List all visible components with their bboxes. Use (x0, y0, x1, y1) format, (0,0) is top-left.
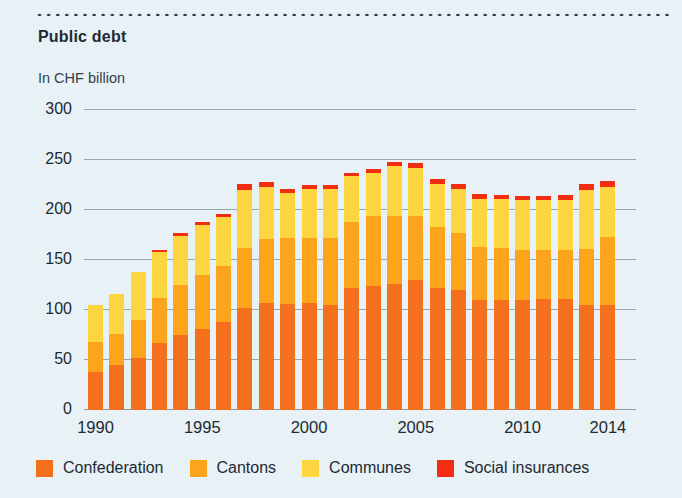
bar-segment-cantons (195, 275, 210, 329)
bar-segment-confederation (472, 300, 487, 410)
bar-segment-confederation (408, 280, 423, 410)
bar-segment-confederation (173, 335, 188, 410)
top-dotted-rule (35, 12, 671, 16)
bar-2007 (451, 184, 466, 410)
legend-item-communes[interactable]: Communes (302, 459, 411, 477)
bar-segment-cantons (366, 216, 381, 286)
bar-segment-communes (515, 200, 530, 250)
bar-1998 (259, 182, 274, 410)
x-axis-tick-label: 2000 (291, 418, 328, 437)
bar-segment-communes (323, 189, 338, 238)
bar-segment-communes (237, 190, 252, 248)
y-axis-tick-label: 150 (45, 250, 72, 268)
bar-segment-confederation (323, 305, 338, 410)
legend-item-cantons[interactable]: Cantons (190, 459, 277, 477)
bar-segment-confederation (579, 305, 594, 410)
bar-segment-communes (451, 189, 466, 233)
bar-series-group (88, 110, 636, 410)
bar-segment-cantons (109, 334, 124, 365)
bar-segment-cantons (259, 239, 274, 303)
bar-segment-confederation (600, 305, 615, 410)
bar-segment-cantons (88, 342, 103, 372)
bar-1999 (280, 189, 295, 410)
bar-segment-cantons (408, 216, 423, 280)
legend-swatch-icon (36, 460, 53, 477)
bar-segment-cantons (494, 248, 509, 300)
y-axis-tick-label: 0 (63, 399, 72, 417)
bar-segment-communes (579, 190, 594, 249)
bar-2005 (408, 163, 423, 410)
bar-1991 (109, 294, 124, 410)
bar-segment-communes (302, 189, 317, 238)
bar-segment-communes (600, 187, 615, 237)
bar-segment-confederation (387, 284, 402, 410)
bar-segment-confederation (152, 343, 167, 410)
y-axis-tick-label: 200 (45, 200, 72, 218)
bar-segment-confederation (451, 290, 466, 410)
bar-2012 (558, 195, 573, 410)
bar-segment-confederation (558, 299, 573, 410)
bar-segment-cantons (216, 266, 231, 322)
bar-segment-communes (152, 252, 167, 298)
bar-segment-cantons (579, 249, 594, 305)
bar-segment-confederation (280, 304, 295, 410)
bar-segment-confederation (88, 372, 103, 410)
bar-segment-confederation (195, 329, 210, 410)
legend-label: Communes (329, 459, 411, 477)
bar-segment-communes (280, 193, 295, 238)
bar-segment-confederation (302, 303, 317, 410)
x-axis-tick-label: 2005 (397, 418, 434, 437)
bar-2011 (536, 196, 551, 410)
bar-2001 (323, 185, 338, 410)
bar-2008 (472, 194, 487, 410)
bar-segment-cantons (558, 250, 573, 299)
bar-1995 (195, 222, 210, 410)
bar-segment-cantons (472, 247, 487, 300)
bar-1997 (237, 184, 252, 410)
bar-segment-cantons (237, 248, 252, 308)
bar-segment-confederation (494, 300, 509, 410)
bar-segment-communes (195, 225, 210, 275)
chart-subtitle: In CHF billion (38, 70, 125, 86)
bar-segment-communes (173, 236, 188, 285)
bar-segment-communes (366, 173, 381, 216)
bar-segment-cantons (344, 222, 359, 288)
bar-segment-communes (131, 272, 146, 320)
bar-segment-cantons (536, 250, 551, 299)
bar-2003 (366, 169, 381, 410)
bar-segment-confederation (237, 308, 252, 410)
bar-segment-cantons (131, 320, 146, 358)
bar-1996 (216, 214, 231, 410)
bar-segment-confederation (216, 322, 231, 410)
page-title: Public debt (38, 28, 126, 46)
legend-swatch-icon (302, 460, 319, 477)
bar-segment-cantons (430, 227, 445, 288)
bar-segment-confederation (344, 288, 359, 410)
bar-2006 (430, 179, 445, 410)
x-axis-tick-label: 2010 (504, 418, 541, 437)
legend-swatch-icon (190, 460, 207, 477)
bar-segment-communes (259, 187, 274, 239)
bar-1994 (173, 233, 188, 410)
bar-1993 (152, 250, 167, 410)
bar-segment-confederation (515, 300, 530, 410)
bar-segment-confederation (366, 286, 381, 410)
bar-segment-cantons (323, 238, 338, 305)
legend-swatch-icon (437, 460, 454, 477)
bar-segment-cantons (302, 238, 317, 303)
y-axis-tick-label: 100 (45, 300, 72, 318)
bar-segment-communes (88, 305, 103, 342)
legend-item-confederation[interactable]: Confederation (36, 459, 164, 477)
legend-label: Social insurances (464, 459, 589, 477)
bar-segment-cantons (173, 285, 188, 335)
bar-segment-communes (344, 176, 359, 222)
bar-segment-communes (536, 200, 551, 250)
y-axis-tick-label: 300 (45, 100, 72, 118)
legend-item-social-insurances[interactable]: Social insurances (437, 459, 589, 477)
bar-segment-communes (430, 184, 445, 227)
y-axis-tick-label: 50 (54, 350, 72, 368)
chart-legend: ConfederationCantonsCommunesSocial insur… (36, 459, 615, 477)
bar-segment-confederation (259, 303, 274, 410)
bar-2010 (515, 196, 530, 410)
bar-segment-communes (216, 217, 231, 266)
